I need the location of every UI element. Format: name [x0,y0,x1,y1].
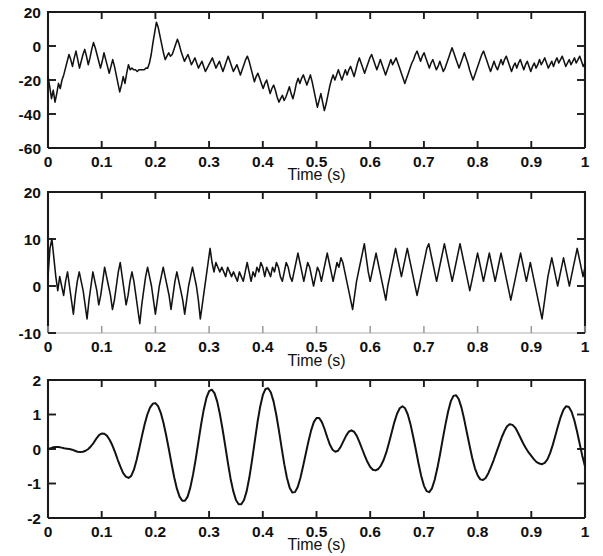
plot-frame [48,380,585,518]
x-tick-label: 0.3 [198,338,220,355]
x-tick-label: 0.1 [91,338,113,355]
x-tick-label: 1 [581,153,590,170]
x-tick-label: 1 [581,523,590,540]
plot-svg-top: 00.10.20.30.40.50.60.70.80.91200-20-40-6… [0,0,603,190]
y-tick-label: -60 [19,140,41,157]
x-tick-label: 0.7 [413,153,435,170]
y-tick-label: -10 [19,325,41,342]
x-tick-label: 0.8 [467,153,489,170]
x-tick-label: 0.9 [521,153,543,170]
x-tick-label: 0.1 [91,153,113,170]
plot-frame [48,12,585,148]
y-tick-label: 0 [32,38,41,55]
x-tick-label: 0 [44,523,53,540]
x-tick-label: 0.3 [198,523,220,540]
plot-svg-middle: 00.10.20.30.40.50.60.70.80.9120100-10Tim… [0,186,603,376]
x-tick-label: 0.4 [252,338,274,355]
x-tick-label: 0.6 [359,523,381,540]
x-tick-label: 0.9 [521,523,543,540]
y-tick-label: 20 [24,186,41,201]
x-tick-label: 0 [44,153,53,170]
x-tick-label: 1 [581,338,590,355]
x-tick-label: 0.2 [145,153,167,170]
x-tick-label: 0.1 [91,523,113,540]
x-axis-label: Time (s) [287,166,345,183]
plot-panel-bottom: 00.10.20.30.40.50.60.70.80.91210-1-2Time… [0,372,603,556]
data-trace-signal-2 [48,239,585,324]
x-tick-label: 0.2 [145,338,167,355]
x-tick-label: 0.3 [198,153,220,170]
y-tick-label: 0 [32,278,41,295]
y-tick-label: 10 [24,231,41,248]
x-axis-label: Time (s) [287,352,345,369]
y-tick-label: 20 [24,4,41,21]
y-tick-label: -40 [19,106,41,123]
plot-panel-top: 00.10.20.30.40.50.60.70.80.91200-20-40-6… [0,0,603,190]
y-tick-label: -1 [27,475,41,492]
figure-container: 00.10.20.30.40.50.60.70.80.91200-20-40-6… [0,0,603,556]
data-trace-signal-1 [48,22,585,110]
plot-frame [48,192,585,333]
x-tick-label: 0.6 [359,153,381,170]
y-tick-label: -20 [19,72,41,89]
y-tick-label: 2 [32,372,41,389]
plot-panel-middle: 00.10.20.30.40.50.60.70.80.9120100-10Tim… [0,186,603,376]
x-tick-label: 0.2 [145,523,167,540]
x-tick-label: 0.4 [252,153,274,170]
x-axis-label: Time (s) [287,536,345,553]
plot-svg-bottom: 00.10.20.30.40.50.60.70.80.91210-1-2Time… [0,372,603,556]
x-tick-label: 0.9 [521,338,543,355]
y-tick-label: -2 [27,510,41,527]
x-tick-label: 0.7 [413,338,435,355]
x-tick-label: 0.8 [467,338,489,355]
x-tick-label: 0.8 [467,523,489,540]
x-tick-label: 0.7 [413,523,435,540]
y-tick-label: 1 [32,406,41,423]
y-tick-label: 0 [32,441,41,458]
x-tick-label: 0 [44,338,53,355]
x-tick-label: 0.6 [359,338,381,355]
data-trace-signal-3 [48,388,585,504]
x-tick-label: 0.4 [252,523,274,540]
